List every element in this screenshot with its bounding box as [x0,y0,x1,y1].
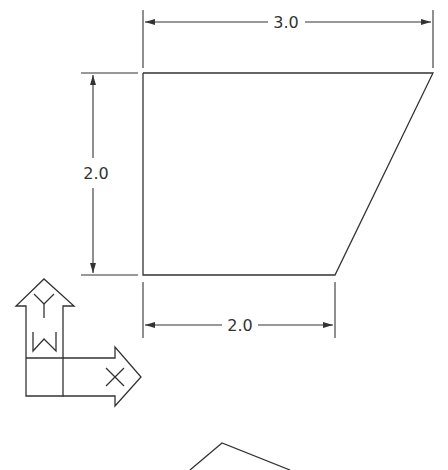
y-axis-arrow-icon [16,279,74,358]
top-dimension: 3.0 [143,10,433,68]
left-dimension: 2.0 [81,73,138,275]
w-label-glyph [33,332,56,351]
x-label-glyph [106,368,124,386]
top-dimension-label: 3.0 [273,13,298,32]
bottom-dimension-label: 2.0 [227,316,252,335]
left-dimension-label: 2.0 [83,164,108,183]
cad-drawing: 3.0 2.0 2.0 Y [0,0,448,470]
ucs-icon: Y W X [16,279,141,406]
y-label-glyph [34,294,54,318]
origin-square-icon [26,358,63,396]
bottom-dimension: 2.0 [143,282,335,338]
partial-shape-bottom [190,443,290,470]
x-axis-arrow-icon [63,347,141,406]
trapezoid-shape [143,73,433,275]
